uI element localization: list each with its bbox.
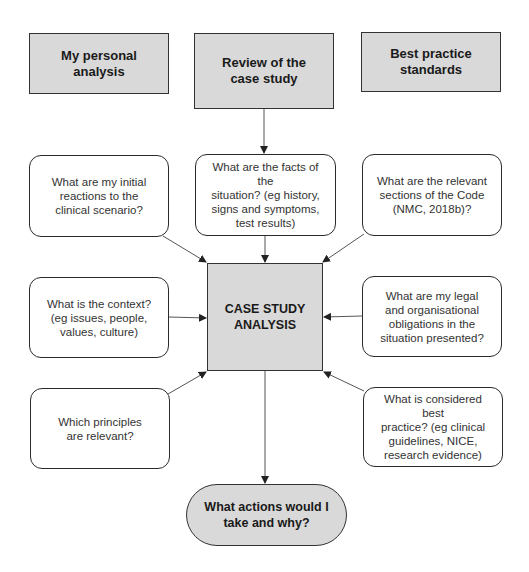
question-code-sections: What are the relevant sections of the Co… [362, 154, 502, 236]
arrow-context-to-center [169, 317, 206, 318]
question-initial-reactions-label: What are my initial reactions to the cli… [52, 175, 147, 217]
question-best-practice-label: What is considered best practice? (eg cl… [372, 392, 494, 462]
diagram-canvas: My personal analysis Review of the case … [0, 0, 529, 572]
question-initial-reactions: What are my initial reactions to the cli… [29, 155, 169, 237]
question-best-practice: What is considered best practice? (eg cl… [363, 387, 503, 467]
arrow-principles-to-center [168, 372, 206, 394]
header-review-case-study-label: Review of the case study [222, 55, 306, 87]
question-legal-obligations: What are my legal and organisational obl… [362, 276, 502, 357]
arrow-initial-reactions-to-center [163, 236, 206, 262]
question-facts-label: What are the facts of the situation? (eg… [204, 160, 327, 230]
arrow-code-to-center [323, 234, 364, 262]
header-personal-analysis: My personal analysis [29, 33, 169, 94]
case-study-analysis-box: CASE STUDY ANALYSIS [207, 263, 323, 371]
question-context-label: What is the context? (eg issues, people,… [47, 297, 151, 339]
actions-terminal-label: What actions would I take and why? [204, 499, 328, 531]
header-personal-analysis-label: My personal analysis [61, 48, 137, 80]
question-context: What is the context? (eg issues, people,… [29, 277, 169, 358]
case-study-analysis-label: CASE STUDY ANALYSIS [225, 301, 306, 333]
header-review-case-study: Review of the case study [194, 33, 334, 109]
question-principles: Which principles are relevant? [30, 388, 170, 469]
header-best-practice-standards: Best practice standards [361, 32, 501, 92]
question-facts: What are the facts of the situation? (eg… [195, 154, 336, 236]
header-best-practice-standards-label: Best practice standards [390, 46, 472, 78]
question-principles-label: Which principles are relevant? [58, 415, 142, 443]
arrow-best-practice-to-center [324, 372, 364, 391]
question-code-sections-label: What are the relevant sections of the Co… [377, 174, 487, 216]
actions-terminal: What actions would I take and why? [186, 484, 347, 546]
question-legal-obligations-label: What are my legal and organisational obl… [380, 289, 484, 345]
arrow-legal-to-center [324, 316, 362, 317]
